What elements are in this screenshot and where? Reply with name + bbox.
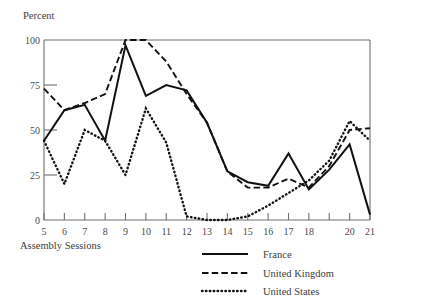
x-tick-label-11: 11 [161, 226, 171, 237]
y-tick-label-100: 100 [25, 35, 40, 46]
x-tick-label-12: 12 [182, 226, 192, 237]
y-tick-label-25: 25 [30, 170, 40, 181]
x-tick-label-16: 16 [263, 226, 273, 237]
x-tick-label-6: 6 [62, 226, 67, 237]
x-tick-label-5: 5 [42, 226, 47, 237]
y-tick-label-50: 50 [30, 125, 40, 136]
y-tick-label-0: 0 [35, 215, 40, 226]
y-tick-label-75: 75 [30, 80, 40, 91]
series-line-france [44, 45, 370, 214]
x-tick-label-14: 14 [222, 226, 232, 237]
data-series-layer [44, 40, 370, 220]
x-tick-label-21: 21 [365, 226, 375, 237]
line-chart-figure: Percent 100 75 50 25 0 56789101112131415… [0, 0, 426, 299]
x-tick-label-8: 8 [103, 226, 108, 237]
x-tick-label-18: 18 [304, 226, 314, 237]
x-tick-label-20: 20 [345, 226, 355, 237]
x-tick-labels: 567891011121314151617182021 [42, 226, 376, 237]
x-tick-label-7: 7 [82, 226, 87, 237]
x-axis-label: Assembly Sessions [20, 240, 101, 251]
series-line-united-kingdom [44, 40, 370, 188]
x-tick-label-9: 9 [123, 226, 128, 237]
legend-label-united-kingdom: United Kingdom [263, 268, 334, 279]
y-tick-labels: 100 75 50 25 0 [25, 35, 40, 226]
x-tick-label-13: 13 [202, 226, 212, 237]
x-tick-label-10: 10 [141, 226, 151, 237]
legend-label-united-states: United States [263, 286, 319, 297]
axis-frame [44, 40, 370, 220]
x-tick-label-15: 15 [243, 226, 253, 237]
y-axis-label: Percent [23, 10, 55, 21]
legend-label-france: France [263, 249, 292, 260]
x-tick-label-17: 17 [284, 226, 294, 237]
chart-legend: France United Kingdom United States [202, 249, 334, 297]
chart-container: Percent 100 75 50 25 0 56789101112131415… [0, 0, 426, 299]
